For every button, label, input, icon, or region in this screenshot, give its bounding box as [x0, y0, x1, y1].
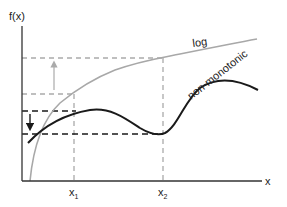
x1-tick-label: x1 [69, 186, 79, 200]
x1-sub: 1 [75, 193, 79, 200]
x2-sub: 2 [164, 193, 168, 200]
x-axis-label: x [265, 175, 271, 187]
log-curve-label: log [192, 35, 208, 49]
y-axis-label: f(x) [9, 10, 25, 22]
diagram-svg: f(x) x x1 x2 log non-monotonic [0, 0, 287, 207]
log-curve [30, 39, 257, 181]
diagram-canvas: f(x) x x1 x2 log non-monotonic [0, 0, 287, 207]
x2-tick-label: x2 [158, 186, 168, 200]
log-guides [22, 58, 163, 181]
non-monotonic-curve-label: non-monotonic [185, 47, 250, 102]
